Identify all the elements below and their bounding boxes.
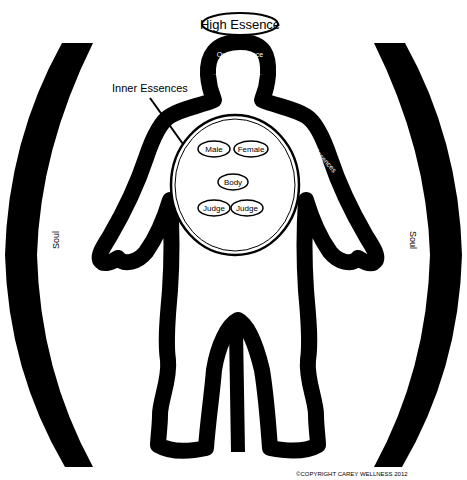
inner-item-judge-right: Judge: [231, 200, 263, 216]
high-essence-label: High Essence: [200, 17, 280, 32]
svg-text:Male: Male: [205, 145, 223, 154]
inner-essences-label: Inner Essences: [112, 82, 188, 94]
svg-text:Judge: Judge: [203, 204, 225, 213]
inner-item-body: Body: [218, 174, 248, 190]
right-soul-bracket: [374, 43, 462, 467]
inner-item-judge-left: Judge: [198, 200, 230, 216]
left-soul-label: Soul: [51, 231, 61, 249]
svg-text:Body: Body: [224, 178, 242, 187]
left-soul-bracket: [5, 43, 93, 467]
inner-item-male: Male: [198, 141, 230, 157]
copyright-text: ©COPYRIGHT CAREY WELLNESS 2012: [296, 471, 408, 477]
inner-item-female: Female: [234, 141, 268, 157]
leg-divider: [236, 330, 238, 452]
svg-text:Judge: Judge: [236, 204, 258, 213]
essence-diagram: High Essence Outer Essence Outer Essence…: [0, 0, 467, 480]
svg-text:Female: Female: [238, 145, 265, 154]
outer-essence-head-label: Outer Essence: [217, 51, 263, 58]
right-soul-label: Soul: [408, 231, 418, 249]
